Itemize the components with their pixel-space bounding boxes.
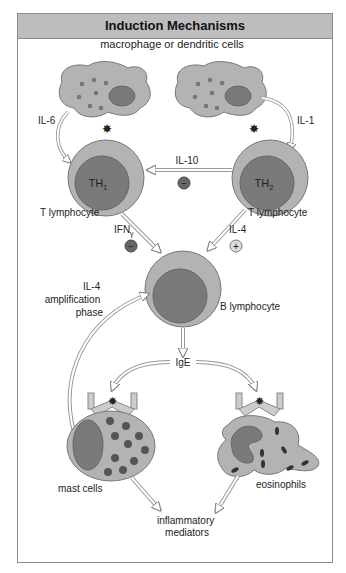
b-lymphocyte-label: B lymphocyte (220, 301, 280, 312)
t-lymphocyte-right-label: T lymphocyte (248, 207, 308, 218)
eosinophils-label: eosinophils (256, 479, 306, 490)
ifn-label: IFNγ (114, 224, 134, 238)
svg-text:✸: ✸ (108, 395, 117, 407)
ige-to-eosinophil-arrow (196, 362, 256, 390)
th1-cell: TH1 (68, 140, 144, 216)
eosinophil-to-mediators-arrow (216, 476, 238, 512)
t-lymphocyte-left-label: T lymphocyte (40, 207, 100, 218)
mast-cell (67, 411, 155, 481)
inflammatory-mediators-label: inflammatory mediators (157, 515, 217, 538)
mast-to-mediators-arrow (132, 478, 160, 510)
macrophage-left (59, 62, 150, 117)
mast-cells-label: mast cells (58, 483, 102, 494)
antigen-icon: ✸ (249, 122, 259, 136)
amplification-label: IL-4 amplification phase (45, 281, 104, 318)
ige-label: IgE (175, 357, 190, 368)
b-lymphocyte-cell (145, 251, 221, 327)
il1-label: IL-1 (297, 115, 315, 126)
ige-receptor-eosinophil: ✸ (236, 393, 283, 416)
svg-text:✸: ✸ (255, 395, 264, 407)
macrophage-right (175, 62, 266, 117)
antigen-icon: ✸ (102, 122, 112, 136)
il4-label: IL-4 (229, 224, 247, 235)
th2-cell: TH2 (232, 140, 308, 216)
apc-label: macrophage or dendritic cells (100, 38, 244, 50)
svg-text:−: − (128, 241, 134, 252)
il6-label: IL-6 (38, 115, 56, 126)
il10-label: IL-10 (176, 155, 199, 166)
ige-to-mast-arrow (112, 362, 170, 390)
svg-text:−: − (181, 178, 187, 189)
svg-text:+: + (233, 241, 239, 252)
eosinophil-cell (218, 416, 319, 477)
induction-diagram: macrophage or dendritic cells ✸ ✸ IL-6 I… (0, 0, 346, 573)
